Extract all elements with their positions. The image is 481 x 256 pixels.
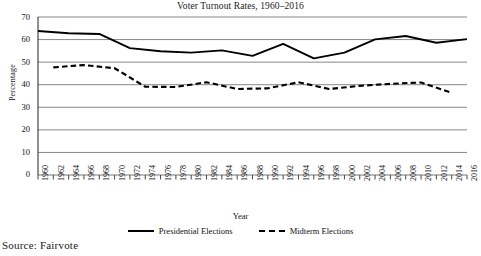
x-tick-label-1960: 1960 (41, 151, 50, 181)
x-tick-label-2012: 2012 (440, 151, 449, 181)
x-tick-label-1972: 1972 (133, 151, 142, 181)
x-tick-label-2010: 2010 (424, 151, 433, 181)
x-tick-label-1996: 1996 (317, 151, 326, 181)
x-tick-label-1966: 1966 (87, 151, 96, 181)
x-tick-label-1974: 1974 (148, 151, 157, 181)
x-tick-label-1986: 1986 (240, 151, 249, 181)
x-tick-label-1982: 1982 (210, 151, 219, 181)
x-tick-label-2006: 2006 (394, 151, 403, 181)
x-tick-label-2014: 2014 (455, 151, 464, 181)
x-axis-title: Year (0, 211, 481, 221)
x-tick-label-1964: 1964 (72, 151, 81, 181)
source-note: Source: Fairvote (2, 239, 78, 251)
x-tick-label-1978: 1978 (179, 151, 188, 181)
legend-label-midterm: Midterm Elections (290, 226, 354, 236)
x-tick-label-2000: 2000 (348, 151, 357, 181)
series-line-presidential-elections (38, 31, 467, 58)
x-tick-label-2002: 2002 (363, 151, 372, 181)
chart-legend: Presidential Elections Midterm Elections (0, 226, 481, 236)
x-tick-label-1980: 1980 (194, 151, 203, 181)
x-tick-label-2008: 2008 (409, 151, 418, 181)
x-tick-label-1962: 1962 (57, 151, 66, 181)
legend-line-solid-icon (128, 230, 154, 232)
x-tick-label-1968: 1968 (102, 151, 111, 181)
x-tick-label-1992: 1992 (286, 151, 295, 181)
x-tick-label-2016: 2016 (470, 151, 479, 181)
x-tick-label-2004: 2004 (378, 151, 387, 181)
x-tick-label-1998: 1998 (332, 151, 341, 181)
legend-item-midterm: Midterm Elections (259, 226, 354, 236)
legend-label-presidential: Presidential Elections (159, 226, 233, 236)
legend-item-presidential: Presidential Elections (128, 226, 233, 236)
x-tick-label-1994: 1994 (302, 151, 311, 181)
x-tick-label-1970: 1970 (118, 151, 127, 181)
x-tick-label-1976: 1976 (164, 151, 173, 181)
series-line-midterm-elections (53, 65, 451, 93)
legend-line-dashed-icon (259, 230, 285, 232)
x-tick-label-1988: 1988 (256, 151, 265, 181)
voter-turnout-figure: Voter Turnout Rates, 1960–2016 Percentag… (0, 0, 481, 256)
x-tick-label-1990: 1990 (271, 151, 280, 181)
x-tick-label-1984: 1984 (225, 151, 234, 181)
